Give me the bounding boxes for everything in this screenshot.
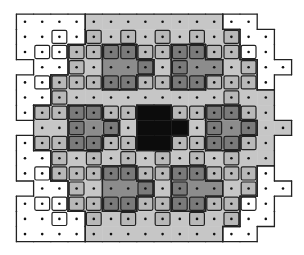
- cell-dot: [247, 127, 250, 130]
- cell-dot: [196, 218, 199, 221]
- cell-dot: [230, 51, 233, 54]
- cell-dot: [58, 142, 61, 145]
- cell-dot: [41, 20, 44, 23]
- cell-dot: [196, 36, 199, 39]
- cell-dot: [213, 218, 216, 221]
- cell-dot: [75, 202, 78, 205]
- cell-dot: [161, 96, 164, 99]
- cell-dot: [179, 233, 182, 236]
- cell-dot: [265, 66, 268, 69]
- cell-dot: [144, 187, 147, 190]
- cell-dot: [75, 111, 78, 114]
- cell-dot: [196, 66, 199, 69]
- cell-dot: [75, 36, 78, 39]
- cell-dot: [127, 20, 130, 23]
- grid-cell: [137, 105, 155, 121]
- cell-dot: [213, 81, 216, 84]
- cell-dot: [41, 127, 44, 130]
- cell-dot: [247, 218, 250, 221]
- cell-dot: [110, 157, 113, 160]
- cell-dot: [127, 157, 130, 160]
- cell-dot: [24, 142, 27, 145]
- cell-dot: [127, 172, 130, 175]
- cell-dot: [58, 172, 61, 175]
- cell-dot: [24, 20, 27, 23]
- cell-dot: [127, 218, 130, 221]
- cell-dot: [24, 96, 27, 99]
- cell-dot: [196, 51, 199, 54]
- cell-dot: [213, 187, 216, 190]
- cell-dot: [196, 142, 199, 145]
- cell-dot: [93, 172, 96, 175]
- cell-dot: [110, 96, 113, 99]
- cell-dot: [179, 96, 182, 99]
- cell-dot: [75, 218, 78, 221]
- cell-dot: [230, 187, 233, 190]
- cell-dot: [265, 96, 268, 99]
- cell-dot: [196, 20, 199, 23]
- cell-dot: [75, 172, 78, 175]
- cell-dot: [58, 20, 61, 23]
- cell-dot: [41, 96, 44, 99]
- cell-dot: [127, 127, 130, 130]
- cell-dot: [265, 172, 268, 175]
- cell-dot: [144, 51, 147, 54]
- grid-cell: [154, 135, 172, 151]
- cell-dot: [127, 51, 130, 54]
- cell-dot: [213, 127, 216, 130]
- cell-dot: [24, 172, 27, 175]
- cell-dot: [247, 96, 250, 99]
- cell-dot: [247, 51, 250, 54]
- cell-dot: [161, 51, 164, 54]
- cell-dot: [24, 157, 27, 160]
- cell-dot: [93, 111, 96, 114]
- cell-dot: [93, 202, 96, 205]
- cell-dot: [230, 111, 233, 114]
- cell-dot: [144, 233, 147, 236]
- cell-dot: [24, 233, 27, 236]
- cell-dot: [144, 96, 147, 99]
- cell-dot: [213, 202, 216, 205]
- cell-dot: [230, 127, 233, 130]
- cell-dot: [179, 20, 182, 23]
- cell-dot: [58, 127, 61, 130]
- grid-cell: [137, 135, 155, 151]
- cell-dot: [58, 66, 61, 69]
- cell-dot: [230, 20, 233, 23]
- cell-dot: [24, 81, 27, 84]
- cell-dot: [144, 20, 147, 23]
- cell-dot: [196, 157, 199, 160]
- cell-dot: [93, 187, 96, 190]
- cell-dot: [58, 202, 61, 205]
- cell-dot: [110, 172, 113, 175]
- cell-dot: [179, 202, 182, 205]
- cell-dot: [213, 142, 216, 145]
- cell-dot: [58, 187, 61, 190]
- cell-dot: [127, 81, 130, 84]
- cell-dot: [161, 36, 164, 39]
- cell-dot: [93, 51, 96, 54]
- cell-dot: [110, 66, 113, 69]
- cell-dot: [127, 111, 130, 114]
- cell-dot: [93, 142, 96, 145]
- cell-dot: [41, 157, 44, 160]
- cell-dot: [230, 66, 233, 69]
- cell-dot: [179, 187, 182, 190]
- cell-dot: [196, 187, 199, 190]
- cell-dot: [93, 96, 96, 99]
- cell-dot: [127, 36, 130, 39]
- cell-dot: [213, 51, 216, 54]
- cell-dot: [75, 20, 78, 23]
- cell-dot: [161, 202, 164, 205]
- cell-dot: [213, 172, 216, 175]
- cell-dot: [75, 157, 78, 160]
- cell-dot: [179, 142, 182, 145]
- cell-dot: [247, 157, 250, 160]
- cell-dot: [179, 36, 182, 39]
- cell-dot: [265, 218, 268, 221]
- cell-dot: [41, 172, 44, 175]
- cell-dot: [247, 142, 250, 145]
- cell-dot: [127, 96, 130, 99]
- cell-dot: [93, 36, 96, 39]
- cell-dot: [24, 36, 27, 39]
